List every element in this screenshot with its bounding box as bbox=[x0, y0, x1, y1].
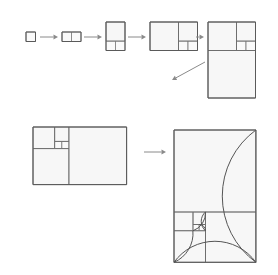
fibonacci-square-5 bbox=[33, 149, 69, 185]
fibonacci-square-3 bbox=[106, 22, 125, 41]
fibonacci-square-2 bbox=[246, 41, 256, 51]
growth-sequence-group bbox=[26, 22, 256, 98]
fibonacci-square-4 bbox=[174, 212, 193, 231]
fibonacci-square-4 bbox=[33, 127, 55, 149]
fibonacci-square-1 bbox=[106, 41, 116, 51]
fibonacci-square-3 bbox=[55, 127, 69, 141]
fibonacci-square-6 bbox=[206, 212, 256, 262]
fibonacci-square-7 bbox=[174, 130, 256, 212]
arrow-step2-step3-head bbox=[98, 35, 103, 40]
sequence-step-5 bbox=[208, 22, 256, 98]
arrow-wrap-to-bottom-row-line bbox=[176, 62, 205, 78]
bottom-left-tiling-group bbox=[33, 127, 127, 185]
fibonacci-square-1 bbox=[55, 141, 62, 148]
fibonacci-square-1 bbox=[62, 32, 72, 42]
sequence-step-2 bbox=[62, 32, 81, 42]
fibonacci-square-6 bbox=[69, 127, 127, 185]
sequence-step-1 bbox=[26, 32, 36, 42]
bottom-right-spiral-group bbox=[174, 130, 256, 262]
arrow-tiling-to-spiral-head bbox=[162, 150, 167, 155]
fibonacci-diagram-page bbox=[0, 0, 278, 275]
fibonacci-square-1 bbox=[26, 32, 36, 42]
fibonacci-square-3 bbox=[237, 22, 256, 41]
fibonacci-square-2 bbox=[116, 41, 126, 51]
sequence-step-3 bbox=[106, 22, 125, 51]
fibonacci-square-4 bbox=[208, 22, 237, 51]
sequence-step-4 bbox=[150, 22, 198, 51]
fibonacci-square-4 bbox=[150, 22, 179, 51]
arrow-step1-step2-head bbox=[54, 35, 59, 40]
bottom-arrow-group bbox=[144, 150, 166, 155]
fibonacci-diagram-svg bbox=[0, 0, 278, 275]
arrow-step4-step5-head bbox=[200, 35, 205, 40]
fibonacci-square-2 bbox=[72, 32, 82, 42]
fibonacci-square-2 bbox=[62, 141, 69, 148]
arrow-step3-step4-head bbox=[142, 35, 147, 40]
fibonacci-square-2 bbox=[188, 41, 198, 51]
fibonacci-square-1 bbox=[237, 41, 247, 51]
fibonacci-square-5 bbox=[208, 51, 256, 99]
fibonacci-square-1 bbox=[179, 41, 189, 51]
fibonacci-square-3 bbox=[179, 22, 198, 41]
